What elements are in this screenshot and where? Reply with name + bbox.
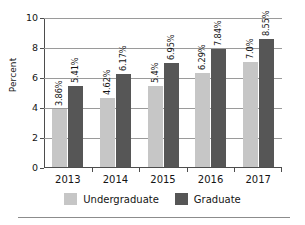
bar-value-label: 6.17% bbox=[118, 46, 128, 72]
bar-chart: Percent 0246810 3.86%5.41%4.62%6.17%5.4%… bbox=[0, 0, 305, 225]
x-axis-line bbox=[44, 167, 282, 168]
y-axis-tickmark bbox=[40, 108, 44, 109]
bar[interactable] bbox=[243, 62, 258, 167]
bar[interactable] bbox=[68, 86, 83, 167]
x-axis-tick-label: 2014 bbox=[92, 174, 138, 185]
x-axis-tickmark bbox=[187, 168, 188, 172]
bar-value-label: 4.62% bbox=[102, 69, 112, 95]
bar-value-label: 6.95% bbox=[166, 34, 176, 60]
bar[interactable] bbox=[100, 98, 115, 167]
bar-value-label: 6.29% bbox=[197, 44, 207, 70]
y-axis-tick-label: 6 bbox=[18, 73, 38, 83]
chart-legend: UndergraduateGraduate bbox=[0, 193, 305, 205]
bar-value-label: 8.55% bbox=[261, 10, 271, 36]
bar[interactable] bbox=[52, 109, 67, 167]
bar-value-label: 5.4% bbox=[150, 63, 160, 83]
bar[interactable] bbox=[116, 74, 131, 167]
legend-label: Undergraduate bbox=[83, 194, 159, 205]
y-axis-tickmark bbox=[40, 168, 44, 169]
bar-value-label: 7.0% bbox=[245, 39, 255, 59]
bar-value-label: 3.86% bbox=[54, 81, 64, 107]
legend-label: Graduate bbox=[194, 194, 241, 205]
bar-group: 7.0%8.55% bbox=[243, 18, 274, 167]
x-axis-tickmark bbox=[281, 168, 282, 172]
y-axis-tickmark bbox=[40, 18, 44, 19]
y-axis-tick-label: 0 bbox=[18, 163, 38, 173]
x-axis-tick-label: 2015 bbox=[140, 174, 186, 185]
plot-area: 3.86%5.41%4.62%6.17%5.4%6.95%6.29%7.84%7… bbox=[44, 18, 282, 168]
y-axis-tick-labels: 0246810 bbox=[18, 0, 38, 225]
legend-swatch-icon bbox=[64, 193, 77, 205]
y-axis-title: Percent bbox=[8, 40, 18, 110]
x-axis-tick-label: 2016 bbox=[188, 174, 234, 185]
legend-swatch-icon bbox=[175, 193, 188, 205]
bar[interactable] bbox=[164, 63, 179, 167]
bar[interactable] bbox=[148, 86, 163, 167]
bottom-divider bbox=[18, 217, 290, 218]
x-axis-tick-label: 2013 bbox=[45, 174, 91, 185]
x-axis-tickmark bbox=[92, 168, 93, 172]
bar-group: 4.62%6.17% bbox=[100, 18, 131, 167]
bar-group: 3.86%5.41% bbox=[52, 18, 83, 167]
bar[interactable] bbox=[195, 73, 210, 167]
y-axis-tick-label: 8 bbox=[18, 43, 38, 53]
bar-group: 5.4%6.95% bbox=[148, 18, 179, 167]
x-axis-tick-label: 2017 bbox=[235, 174, 281, 185]
bar[interactable] bbox=[259, 39, 274, 167]
bar-value-label: 7.84% bbox=[213, 21, 223, 47]
y-axis-tick-label: 4 bbox=[18, 103, 38, 113]
y-axis-tick-label: 10 bbox=[18, 13, 38, 23]
y-axis-tick-label: 2 bbox=[18, 133, 38, 143]
legend-item[interactable]: Graduate bbox=[175, 193, 241, 205]
bar[interactable] bbox=[211, 49, 226, 167]
y-axis-tickmark bbox=[40, 48, 44, 49]
x-axis-tickmark bbox=[139, 168, 140, 172]
bar-value-label: 5.41% bbox=[70, 57, 80, 83]
legend-item[interactable]: Undergraduate bbox=[64, 193, 159, 205]
y-axis-tickmark bbox=[40, 78, 44, 79]
y-axis-tickmark bbox=[40, 138, 44, 139]
x-axis-tickmark bbox=[234, 168, 235, 172]
y-axis-line bbox=[44, 18, 45, 168]
bar-group: 6.29%7.84% bbox=[195, 18, 226, 167]
